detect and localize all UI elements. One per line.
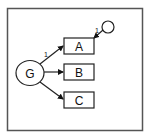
loading-label-a: 1 bbox=[44, 51, 48, 58]
latent-label: G bbox=[25, 67, 34, 81]
error-term-node bbox=[102, 21, 114, 33]
indicator-label-b: B bbox=[75, 66, 83, 80]
loading-label-error: 1 bbox=[95, 27, 99, 34]
path-diagram: G A B C 1 1 bbox=[0, 0, 148, 137]
indicator-label-a: A bbox=[75, 40, 83, 54]
indicator-label-c: C bbox=[75, 94, 84, 108]
